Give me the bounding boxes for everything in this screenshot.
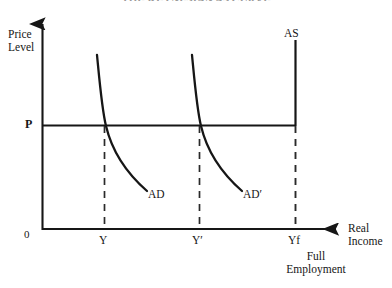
x-axis-label: Real Income bbox=[348, 222, 382, 248]
ad-curve-label: AD bbox=[148, 188, 165, 201]
x-tick-label-yf: Yf bbox=[288, 234, 300, 247]
keynesian-as-curve-diagram: THE KEYNESIAN AS CURVE Price Level bbox=[0, 0, 392, 288]
x-tick-label-y-prime: Y′ bbox=[192, 234, 203, 247]
y-axis-label: Price Level bbox=[8, 28, 34, 54]
as-curve-label: AS bbox=[284, 27, 299, 40]
ad-prime-curve-label: AD′ bbox=[243, 188, 262, 201]
full-employment-note: Full Employment bbox=[268, 250, 364, 276]
price-level-label: P bbox=[25, 118, 32, 131]
origin-label: 0 bbox=[24, 228, 30, 240]
x-tick-label-y: Y bbox=[99, 234, 107, 247]
